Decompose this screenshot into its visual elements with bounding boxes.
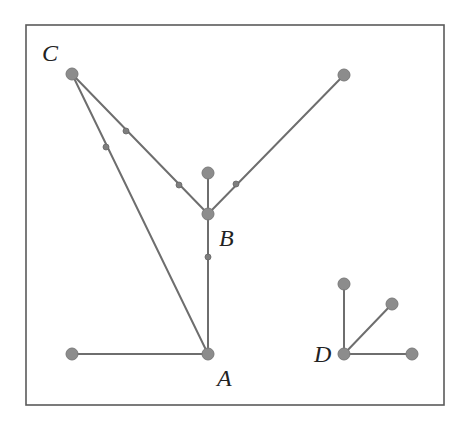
node-dr: [406, 348, 418, 360]
edge-midpoint-marker: [176, 182, 182, 188]
diagram-frame: [26, 25, 444, 405]
node-dd: [386, 298, 398, 310]
label-a: A: [215, 365, 232, 391]
node-a: [202, 348, 214, 360]
node-bt: [202, 167, 214, 179]
label-d: D: [313, 341, 331, 367]
label-c: C: [42, 40, 59, 66]
edge-midpoint-marker: [123, 128, 129, 134]
node-tr: [338, 69, 350, 81]
edge-midpoint-marker: [103, 144, 109, 150]
edge-midpoint-marker: [233, 181, 239, 187]
node-l: [66, 348, 78, 360]
edge-midpoint-marker: [205, 254, 211, 260]
node-d: [338, 348, 350, 360]
label-b: B: [219, 225, 234, 251]
node-b: [202, 208, 214, 220]
node-c: [66, 68, 78, 80]
node-du: [338, 278, 350, 290]
graph-diagram: C B A D: [0, 0, 462, 421]
